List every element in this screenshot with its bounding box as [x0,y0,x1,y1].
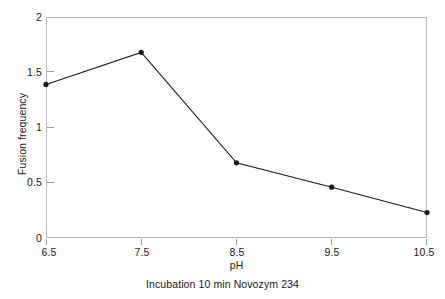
y-tick-label-0-5: 0.5 [27,177,42,188]
figure: 2 1.5 1 0.5 0 6.5 7.5 8.5 9.5 10.5 Fusio… [0,0,445,299]
figure-caption: Incubation 10 min Novozym 234 [0,278,445,290]
y-axis-title: Fusion frequency [16,69,28,199]
x-tick-mark-9-5 [331,239,332,245]
y-tick-label-1: 1 [36,122,42,133]
y-tick-label-0: 0 [36,233,42,244]
x-tick-label-7-5: 7.5 [135,246,150,258]
y-tick-label-1-5: 1.5 [27,67,42,78]
y-tick-label-2: 2 [36,12,42,23]
x-tick-mark-6-5 [46,239,47,245]
x-tick-label-10-5: 10.5 [414,246,435,258]
x-tick-mark-10-5 [426,239,427,245]
data-point-ph-8-5 [234,160,239,165]
data-series-layer [46,17,427,238]
series-line-fusion-frequency [46,52,427,212]
data-point-ph-6-5 [43,82,48,87]
data-point-ph-10-5 [424,210,429,215]
x-tick-mark-8-5 [236,239,237,245]
x-tick-label-8-5: 8.5 [230,246,245,258]
x-tick-mark-7-5 [141,239,142,245]
series-markers [43,50,429,215]
x-tick-label-6-5: 6.5 [42,246,57,258]
x-tick-label-9-5: 9.5 [325,246,340,258]
data-point-ph-9-5 [329,185,334,190]
x-axis-title: pH [0,259,445,271]
data-point-ph-7-5 [139,50,144,55]
